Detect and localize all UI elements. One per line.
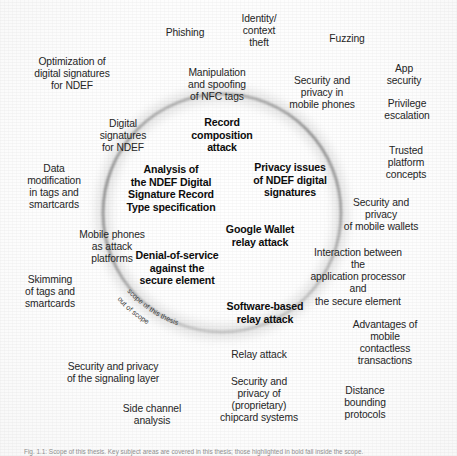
topic-manipulation-spoofing-nfc-tags: Manipulation and spoofing of NFC tags: [188, 67, 246, 103]
topic-digital-signatures-ndef: Digital signatures for NDEF: [100, 118, 147, 154]
topic-security-privacy-mobile-phones: Security and privacy in mobile phones: [289, 75, 355, 111]
topic-privilege-escalation: Privilege escalation: [384, 98, 429, 122]
topic-phishing: Phishing: [166, 27, 205, 39]
topic-identity-context-theft: Identity/ context theft: [241, 13, 276, 49]
scope-inside-textpath: scope of this thesis: [126, 287, 181, 328]
topic-skimming-tags-smartcards: Skimming of tags and smartcards: [25, 274, 75, 310]
topic-privacy-issues-ndef-digital-signatures: Privacy issues of NDEF digital signature…: [253, 161, 327, 199]
scope-outside-label: out of scope: [116, 295, 151, 326]
topic-side-channel-analysis: Side channel analysis: [123, 403, 181, 427]
scope-inside-label: scope of this thesis: [126, 287, 181, 328]
topic-app-security: App security: [378, 63, 431, 87]
topic-security-privacy-mobile-wallets: Security and privacy of mobile wallets: [343, 197, 419, 233]
topic-analysis-ndef-digital-signature-record-type-specification: Analysis of the NDEF Digital Signature R…: [127, 163, 216, 213]
topic-interaction-application-processor-secure-element: Interaction between the application proc…: [309, 247, 408, 308]
topic-security-privacy-proprietary-chipcard-systems: Security and privacy of (proprietary) ch…: [220, 376, 298, 425]
topic-fuzzing: Fuzzing: [329, 33, 364, 45]
figure-caption: Fig. 1.1: Scope of this thesis. Key subj…: [24, 448, 436, 456]
topic-data-modification-tags-smartcards: Data modification in tags and smartcards: [27, 163, 81, 212]
thesis-scope-figure: scope of this thesis out of scope Phishi…: [0, 0, 457, 456]
topic-software-based-relay-attack: Software-based relay attack: [227, 300, 304, 325]
topic-optimization-digital-signatures-ndef: Optimization of digital signatures for N…: [34, 56, 109, 92]
topic-record-composition-attack: Record composition attack: [191, 116, 252, 154]
topic-denial-of-service-against-secure-element: Denial-of-service against the secure ele…: [136, 249, 219, 287]
topic-relay-attack: Relay attack: [231, 349, 286, 361]
topic-advantages-mobile-contactless-transactions: Advantages of mobile contactless transac…: [349, 319, 421, 368]
topic-distance-bounding-protocols: Distance bounding protocols: [344, 385, 386, 421]
topic-trusted-platform-concepts: Trusted platform concepts: [386, 145, 426, 181]
scope-outside-textpath: out of scope: [116, 295, 151, 326]
topic-google-wallet-relay-attack: Google Wallet relay attack: [226, 223, 294, 248]
topic-security-privacy-signaling-layer: Security and privacy of the signaling la…: [67, 361, 159, 385]
